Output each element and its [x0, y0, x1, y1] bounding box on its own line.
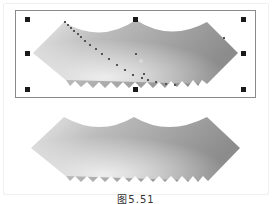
selection-bounding-box[interactable] [15, 10, 256, 98]
bottom-gradient-shape[interactable] [31, 117, 240, 182]
handle-bottom-right[interactable] [241, 87, 246, 92]
handle-middle-left[interactable] [25, 51, 30, 56]
handle-bottom-center[interactable] [133, 87, 138, 92]
handle-top-right[interactable] [241, 17, 246, 22]
handle-top-left[interactable] [25, 17, 30, 22]
handle-bottom-left[interactable] [25, 87, 30, 92]
handle-top-center[interactable] [133, 17, 138, 22]
figure-caption: 图5.51 [0, 191, 272, 204]
handle-middle-right[interactable] [241, 51, 246, 56]
